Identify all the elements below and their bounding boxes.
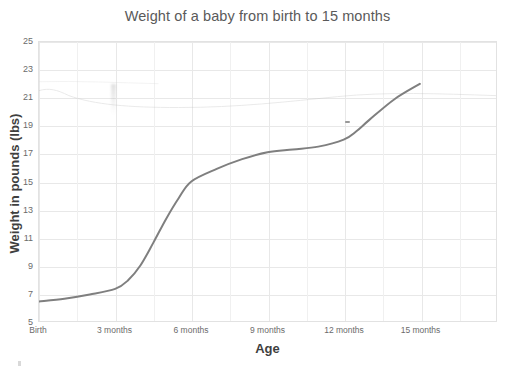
x-tick-label-5: 15 months [401, 325, 441, 335]
x-axis-tick-labels: Birth3 months6 months9 months12 months15… [38, 325, 497, 339]
page-edge-artifact [18, 361, 21, 366]
x-tick-label-4: 12 months [324, 325, 364, 335]
data-series-line [39, 42, 496, 321]
y-tick-label-25: 25 [4, 36, 38, 46]
x-tick-label-3: 9 months [250, 325, 285, 335]
x-axis-title: Age [38, 341, 497, 356]
chart-title: Weight of a baby from birth to 15 months [0, 8, 515, 24]
x-tick-label-0: Birth [29, 325, 46, 335]
chart-container: Weight of a baby from birth to 15 months… [0, 0, 515, 374]
x-tick-label-1: 3 months [97, 325, 132, 335]
x-tick-label-2: 6 months [174, 325, 209, 335]
plot-area [38, 41, 497, 322]
y-axis-title: Weight in pounds (lbs) [7, 74, 22, 294]
